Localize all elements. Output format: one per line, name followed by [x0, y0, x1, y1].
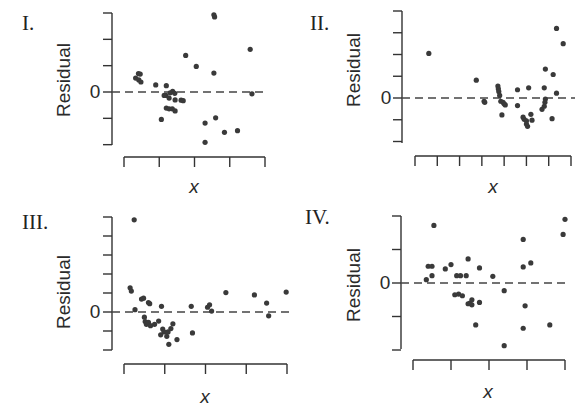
data-point [497, 93, 502, 98]
x-axis-label: x [487, 176, 499, 197]
data-point [194, 64, 199, 69]
residual-plot-panel-1: I.Residual0x [22, 11, 268, 197]
zero-tick-label: 0 [90, 81, 101, 102]
data-point [528, 260, 533, 265]
data-point [499, 112, 504, 117]
panel-label: IV. [305, 205, 330, 229]
data-point [477, 265, 482, 270]
data-point [561, 41, 566, 46]
data-point [284, 289, 289, 294]
data-point [164, 83, 169, 88]
data-point [551, 72, 556, 77]
data-point [166, 342, 171, 347]
data-point [490, 274, 495, 279]
panel-label: II. [310, 11, 329, 35]
data-point [477, 300, 482, 305]
data-point [469, 297, 474, 302]
data-point [458, 273, 463, 278]
data-point [183, 53, 188, 58]
data-point [235, 128, 240, 133]
data-point [521, 237, 526, 242]
data-point [547, 322, 552, 327]
data-point [526, 85, 531, 90]
data-point [469, 302, 474, 307]
data-point [222, 130, 227, 135]
data-point [443, 266, 448, 271]
data-point [158, 332, 163, 337]
x-axis-label: x [188, 176, 200, 197]
data-point [523, 303, 528, 308]
data-point [473, 322, 478, 327]
y-axis-label: Residual [53, 43, 74, 117]
data-point [424, 277, 429, 282]
data-point [138, 71, 143, 76]
data-point [515, 103, 520, 108]
data-point [164, 334, 169, 339]
data-point [561, 232, 566, 237]
data-point [515, 87, 520, 92]
data-point [138, 79, 143, 84]
data-point [202, 120, 207, 125]
data-point [429, 264, 434, 269]
data-point [431, 223, 436, 228]
data-point [212, 14, 217, 19]
data-point [181, 98, 186, 103]
data-point [168, 326, 173, 331]
y-axis-label: Residual [53, 255, 74, 329]
residual-plots-figure: I.Residual0xII.Residual0xIII.Residual0xI… [0, 0, 578, 414]
data-point [132, 307, 137, 312]
data-point [159, 304, 164, 309]
data-point [142, 315, 147, 320]
data-point [543, 66, 548, 71]
data-point [159, 117, 164, 122]
data-point [132, 217, 137, 222]
data-point [252, 292, 257, 297]
data-point [129, 289, 134, 294]
panel-label: III. [22, 210, 48, 234]
data-point [429, 273, 434, 278]
data-point [502, 101, 507, 106]
x-axis-label: x [199, 386, 211, 407]
data-point [172, 91, 177, 96]
data-point [426, 51, 431, 56]
zero-tick-label: 0 [380, 272, 391, 293]
data-point [554, 26, 559, 31]
panel-label: I. [22, 11, 34, 35]
data-point [264, 300, 269, 305]
data-point [207, 302, 212, 307]
y-axis-label: Residual [343, 33, 364, 107]
data-point [209, 308, 214, 313]
data-point [460, 293, 465, 298]
data-point [466, 256, 471, 261]
data-point [170, 321, 175, 326]
data-point [213, 115, 218, 120]
data-point [156, 319, 161, 324]
residual-plot-panel-2: II.Residual0x [310, 11, 575, 197]
residual-plot-panel-4: IV.Residual0x [305, 205, 568, 402]
data-point [542, 85, 547, 90]
data-point [266, 313, 271, 318]
data-point [539, 107, 544, 112]
data-point [482, 100, 487, 105]
data-point [528, 112, 533, 117]
data-point [211, 70, 216, 75]
data-point [147, 301, 152, 306]
data-point [502, 288, 507, 293]
data-point [162, 93, 167, 98]
zero-tick-label: 0 [90, 301, 101, 322]
data-point [521, 264, 526, 269]
data-point [152, 322, 157, 327]
data-point [173, 97, 178, 102]
data-point [248, 47, 253, 52]
data-point [474, 78, 479, 83]
data-point [202, 140, 207, 145]
data-point [249, 91, 254, 96]
data-point [173, 108, 178, 113]
data-point [549, 116, 554, 121]
data-point [190, 330, 195, 335]
data-point [525, 124, 530, 129]
residual-plot-panel-3: III.Residual0x [22, 210, 290, 407]
data-point [529, 118, 534, 123]
data-point [189, 304, 194, 309]
y-axis-label: Residual [343, 248, 364, 322]
